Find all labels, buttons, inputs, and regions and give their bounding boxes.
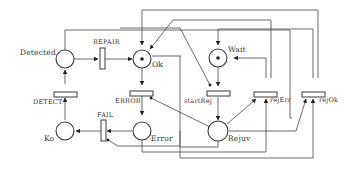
place-error[interactable] [133,122,151,140]
label-error-place: Error [151,134,173,143]
place-ko[interactable] [56,122,74,140]
place-rejuv[interactable] [208,121,228,141]
place-wait[interactable] [209,49,227,67]
arc-rejuv-rejok [229,99,306,131]
label-detected: Detected [20,48,56,57]
token [216,56,220,60]
label-error-transition: ERROR [115,97,142,105]
label-fail: FAIL [97,111,114,119]
place-detected[interactable] [56,50,74,68]
arc-rejuv-rejerr [227,99,256,124]
arc-rejerr-wait [234,58,266,78]
transition-error[interactable] [130,91,153,96]
label-startrej: startRej [184,97,212,105]
label-detect: DETECT [33,98,63,106]
petri-net-diagram: Detected REPAIR Ok Wait DETECT ERROR sta… [0,0,359,170]
transition-startrej[interactable] [207,91,230,96]
transition-fail[interactable] [101,120,106,141]
label-wait: Wait [228,45,246,54]
transition-repair[interactable] [100,48,105,69]
label-repair: REPAIR [93,38,121,46]
place-ok[interactable] [133,50,151,68]
arc-rejuv-bottom [180,141,218,147]
label-ko: Ko [44,134,55,143]
label-rejerr: rejErr [270,96,292,104]
transition-detect[interactable] [54,92,77,97]
label-ok: Ok [152,60,163,69]
label-rejok: rejOk [319,96,338,104]
token [140,57,144,61]
label-rejuv: Rejuv [228,134,251,143]
